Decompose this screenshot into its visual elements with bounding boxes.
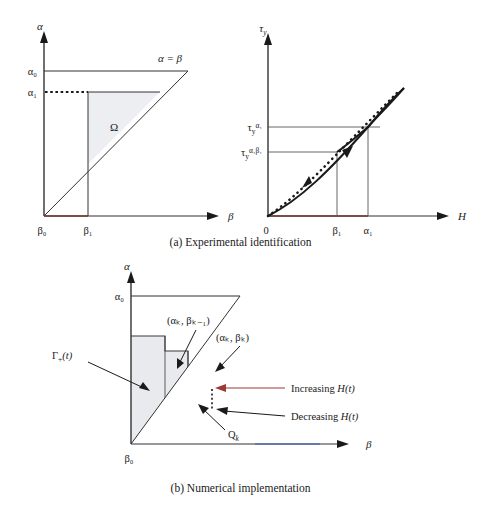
tau-axis-label-sub: y (262, 28, 267, 37)
beta-axis-label-b: β (365, 438, 372, 450)
beta-axis-arrowhead-b (337, 440, 349, 448)
increasing-ht-label: Increasing H(t) (291, 383, 355, 395)
panel-b-caption: (b) Numerical implementation (171, 482, 311, 494)
alpha-axis-arrowhead (40, 31, 48, 43)
alpha-axis-label-b: α (124, 260, 130, 272)
vertex-lower-label: (αₖ, βₖ) (216, 332, 250, 344)
panel-a-left-plot: α β α₀ α₁ β₀ β₁ α = β Ω (28, 20, 234, 236)
tau-alpha1beta1-tick-label: τyα₁β₁ (241, 146, 262, 161)
figure-root: α β α₀ α₁ β₀ β₁ α = β Ω (0, 0, 481, 505)
tau-axis-label: τy (259, 22, 267, 37)
beta0-tick-label-b: β₀ (124, 453, 133, 464)
panel-a-caption: (a) Experimental identification (170, 236, 312, 248)
alpha-axis-label: α (37, 20, 43, 32)
panel-a-caption-wrap: (a) Experimental identification (0, 232, 481, 250)
beta-axis-arrowhead (207, 212, 219, 220)
panel-b-caption-wrap: (b) Numerical implementation (0, 478, 481, 496)
alpha0-tick-label: α₀ (28, 66, 38, 77)
diagonal-label: α = β (158, 52, 183, 64)
panel-a-graphic: α β α₀ α₁ β₀ β₁ α = β Ω (0, 0, 481, 255)
h-axis-arrowhead (437, 212, 449, 220)
h-axis-label: H (457, 210, 467, 222)
panel-b-graphic: α β α₀ β₀ Γ+(t) (αₖ, βₖ₋₁) (αₖ, βₖ) Incr… (0, 258, 481, 483)
alpha0-tick-label-b: α₀ (115, 291, 125, 302)
tau-alpha1-tick-label: τyα₁ (247, 121, 262, 136)
vertex-upper-label: (αₖ, βₖ₋₁) (167, 315, 210, 327)
initial-curve-dotted (268, 90, 400, 216)
alpha-axis-arrowhead-b (127, 271, 135, 283)
omega-label: Ω (110, 121, 118, 133)
alpha1-tick-label: α₁ (28, 87, 37, 98)
gamma-plus-label: Γ+(t) (52, 350, 73, 364)
decreasing-ht-label: Decreasing H(t) (291, 411, 359, 423)
panel-a-right-plot: τy H 0 β₁ α₁ τyα₁ τyα₁β₁ (241, 22, 467, 236)
omega-region (88, 92, 160, 164)
beta-axis-label: β (227, 210, 234, 222)
